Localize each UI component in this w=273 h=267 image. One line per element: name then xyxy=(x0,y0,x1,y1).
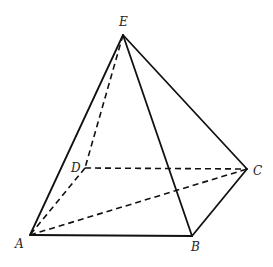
label-A: A xyxy=(14,237,24,251)
pyramid-diagram: E D C A B xyxy=(0,0,273,267)
edge-DC-hidden xyxy=(85,168,247,169)
label-E: E xyxy=(118,15,128,29)
edges xyxy=(30,35,247,236)
edge-EB xyxy=(123,35,192,236)
label-C: C xyxy=(253,164,262,178)
edge-EC xyxy=(123,35,247,169)
edge-AC-hidden xyxy=(30,169,247,235)
edge-EA xyxy=(30,35,123,235)
edge-DA-hidden xyxy=(30,168,85,235)
edge-AB xyxy=(30,235,192,236)
edge-ED-hidden xyxy=(85,35,123,168)
edge-BC xyxy=(192,169,247,236)
label-B: B xyxy=(190,240,200,254)
label-D: D xyxy=(70,161,81,175)
